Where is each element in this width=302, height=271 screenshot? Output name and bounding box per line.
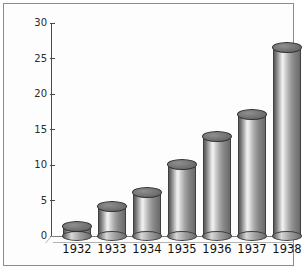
x-label-1933: 1933 — [92, 243, 132, 256]
bar-1934 — [133, 193, 161, 236]
cylinder-body — [203, 137, 231, 236]
y-tick-mark — [50, 129, 55, 130]
cylinder-bottom — [202, 231, 232, 241]
cylinder-top — [272, 42, 299, 53]
cylinder-bottom — [237, 231, 267, 241]
y-tick-25: 25 — [9, 54, 55, 64]
plot-area: 30 25 20 15 10 5 0 — [51, 23, 294, 236]
y-tick-label: 5 — [21, 196, 47, 206]
x-label-1938: 1938 — [267, 243, 299, 256]
bar-1937 — [238, 115, 266, 236]
y-tick-mark — [50, 94, 55, 95]
cylinder-body — [238, 115, 266, 236]
y-tick-15: 15 — [9, 125, 55, 135]
y-tick-label: 20 — [21, 89, 47, 99]
y-tick-5: 5 — [9, 196, 55, 206]
y-tick-label: 15 — [21, 125, 47, 135]
cylinder-bottom — [272, 231, 299, 241]
chart-frame: 30 25 20 15 10 5 0 — [3, 3, 294, 266]
y-tick-label: 25 — [21, 54, 47, 64]
cylinder-bottom — [132, 231, 162, 241]
cylinder-bottom — [167, 231, 197, 241]
x-axis-labels: 1932 1933 1934 1935 1936 1937 1938 — [51, 243, 297, 257]
y-tick-label: 0 — [21, 231, 47, 241]
y-tick-20: 20 — [9, 89, 55, 99]
y-tick-30: 30 — [9, 18, 55, 28]
bar-1935 — [168, 165, 196, 236]
cylinder-top — [132, 187, 162, 198]
bar-1938 — [273, 48, 299, 236]
cylinder-top — [202, 131, 232, 142]
x-label-1935: 1935 — [162, 243, 202, 256]
y-tick-mark — [50, 23, 55, 24]
cylinder-body — [168, 165, 196, 236]
cylinder-top — [97, 201, 127, 212]
cylinder-top — [167, 159, 197, 170]
y-tick-mark — [50, 200, 55, 201]
x-label-1932: 1932 — [57, 243, 97, 256]
cylinder-body — [273, 48, 299, 236]
bar-1932 — [63, 227, 91, 236]
cylinder-top — [62, 221, 92, 232]
x-label-1934: 1934 — [127, 243, 167, 256]
x-label-1937: 1937 — [232, 243, 272, 256]
x-label-1936: 1936 — [197, 243, 237, 256]
y-tick-label: 10 — [21, 160, 47, 170]
bar-1936 — [203, 137, 231, 236]
y-tick-label: 30 — [21, 18, 47, 28]
y-tick-mark — [50, 165, 55, 166]
cylinder-body — [133, 193, 161, 236]
bar-1933 — [98, 207, 126, 236]
y-tick-mark — [50, 58, 55, 59]
cylinder-bottom — [97, 231, 127, 241]
cylinder-bottom — [62, 231, 92, 241]
y-tick-10: 10 — [9, 160, 55, 170]
